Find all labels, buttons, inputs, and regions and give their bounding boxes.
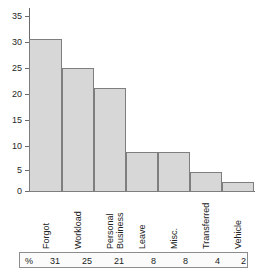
category-label-line: Leave xyxy=(137,193,147,249)
bar-misc[interactable] xyxy=(158,152,190,192)
x-axis-category-labels: Forgot Workload Personal Business Leave … xyxy=(29,193,255,249)
category-label-transferred: Transferred xyxy=(201,193,233,249)
category-label-line: Vehicle xyxy=(233,193,243,249)
bar-leave[interactable] xyxy=(126,152,158,192)
value-table-cell-forgot: 31 xyxy=(34,256,60,266)
y-tick-label-20: 20 xyxy=(2,90,22,99)
y-tick-label-10: 10 xyxy=(2,142,22,151)
bar-forgot[interactable] xyxy=(29,39,62,192)
category-label-vehicle: Vehicle xyxy=(233,193,261,249)
category-label-personal-business: Personal Business xyxy=(105,193,137,249)
category-label-line: Personal xyxy=(105,193,115,249)
bar-workload[interactable] xyxy=(62,68,94,192)
category-label-forgot: Forgot xyxy=(41,193,73,249)
value-table-cell-transferred: 4 xyxy=(194,256,220,266)
bar-personal-business[interactable] xyxy=(94,88,126,192)
value-table-cell-workload: 25 xyxy=(66,256,92,266)
y-tick-label-35: 35 xyxy=(2,12,22,21)
category-label-line: Transferred xyxy=(201,193,211,249)
bar-chart-figure: 35 30 25 20 15 10 5 0 Forgot Work xyxy=(0,0,261,277)
value-table-cell-leave: 8 xyxy=(130,256,156,266)
category-label-leave: Leave xyxy=(137,193,169,249)
value-table-unit-symbol: % xyxy=(25,256,33,266)
category-label-line: Business xyxy=(115,193,125,249)
y-tick-label-30: 30 xyxy=(2,38,22,47)
category-label-workload: Workload xyxy=(73,193,105,249)
category-label-misc: Misc. xyxy=(169,193,201,249)
y-tick-label-25: 25 xyxy=(2,64,22,73)
bar-series xyxy=(29,8,255,192)
bar-vehicle[interactable] xyxy=(222,182,254,192)
category-label-line: Misc. xyxy=(169,193,179,249)
value-table: % 31 25 21 8 8 4 2 xyxy=(19,252,248,268)
y-tick-label-0: 0 xyxy=(2,187,22,196)
bar-transferred[interactable] xyxy=(190,172,222,192)
y-tick-label-15: 15 xyxy=(2,116,22,125)
category-label-line: Workload xyxy=(73,193,83,249)
value-table-cell-personal-business: 21 xyxy=(98,256,124,266)
value-table-cell-vehicle: 2 xyxy=(220,256,246,266)
y-tick-label-5: 5 xyxy=(2,166,22,175)
value-table-cell-misc: 8 xyxy=(162,256,188,266)
category-label-line: Forgot xyxy=(41,193,51,249)
